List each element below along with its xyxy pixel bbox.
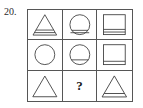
missing-answer-question-mark: ? bbox=[63, 71, 97, 101]
matrix-cell-r2c3[interactable] bbox=[97, 40, 132, 70]
matrix-cell-r1c3[interactable] bbox=[97, 10, 132, 40]
matrix-cell-r1c2[interactable] bbox=[63, 10, 98, 40]
question-number-label: 20. bbox=[4, 7, 17, 17]
matrix-cell-r2c1[interactable] bbox=[28, 40, 63, 70]
plain-triangle-icon bbox=[28, 71, 62, 101]
triangle-with-thick-band-icon bbox=[28, 10, 62, 39]
plain-circle-icon bbox=[28, 40, 62, 69]
matrix-cell-r3c1[interactable] bbox=[28, 71, 63, 101]
matrix-cell-r3c3[interactable] bbox=[97, 71, 132, 101]
triangle-with-thin-band-icon bbox=[97, 71, 132, 101]
square-with-thick-band-icon bbox=[97, 10, 132, 39]
matrix-grid: ? bbox=[27, 9, 133, 102]
matrix-puzzle: 20. bbox=[0, 0, 143, 108]
circle-with-thick-band-icon bbox=[63, 10, 97, 39]
circle-with-thin-band-icon bbox=[63, 40, 97, 69]
matrix-cell-r2c2[interactable] bbox=[63, 40, 98, 70]
matrix-cell-r1c1[interactable] bbox=[28, 10, 63, 40]
square-with-thin-band-icon bbox=[97, 40, 132, 69]
matrix-cell-r3c2[interactable]: ? bbox=[63, 71, 98, 101]
